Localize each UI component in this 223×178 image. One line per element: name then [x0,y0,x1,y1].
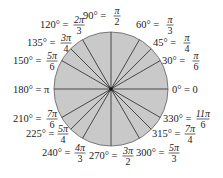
degree-text: 300° = [136,147,165,158]
degree-text: 270° = [89,150,118,161]
degree-text: 90° = [83,10,106,21]
radian-numerator: 5π [169,142,180,153]
center-point [109,87,113,91]
radian-numerator: 5π [58,123,69,134]
radian-numerator: π [193,50,199,61]
angle-label-60: 60° = π3 [136,14,174,36]
radian-denominator: 4 [61,134,66,145]
angle-label-0: 0° = 0 [172,84,198,95]
degree-text: 315° = [152,128,181,139]
radian-numerator: 2π [74,14,85,25]
degree-text: 45° = [153,37,176,48]
angle-label-240: 240° = 4π3 [42,142,86,164]
degree-text: 180° = π [13,84,50,95]
angle-label-225: 225° = 5π4 [26,123,69,145]
radian-numerator: 5π [47,50,58,61]
degree-text: 30° = [162,55,185,66]
radian-numerator: 3π [60,32,72,43]
radian-denominator: 6 [194,61,199,72]
radian-numerator: 3π [122,145,134,156]
radian-numerator: π [114,5,120,16]
angle-label-90: 90° = π2 [83,5,121,27]
radian-denominator: 2 [126,156,131,167]
degree-text: 120° = [40,19,69,30]
degree-text: 225° = [26,128,55,139]
degree-text: 330° = [163,113,192,124]
unit-circle-svg: 0° = 030° = π645° = π460° = π390° = π212… [0,0,223,178]
degree-text: 0° = 0 [172,84,198,95]
radian-numerator: 7π [185,123,196,134]
radian-denominator: 4 [64,43,69,54]
degree-text: 135° = [27,37,56,48]
radian-denominator: 6 [50,61,55,72]
radian-numerator: 4π [75,142,86,153]
radian-denominator: 6 [201,119,206,130]
radian-numerator: π [184,32,190,43]
radian-denominator: 3 [172,153,177,164]
radian-denominator: 3 [77,25,82,36]
radian-numerator: 7π [47,108,58,119]
radian-denominator: 3 [168,25,173,36]
angle-label-270: 270° = 3π2 [89,145,134,167]
degree-text: 210° = [13,113,42,124]
angle-label-300: 300° = 5π3 [136,142,180,164]
radian-denominator: 3 [78,153,83,164]
degree-text: 60° = [136,19,159,30]
degree-text: 150° = [13,55,42,66]
angle-label-150: 150° = 5π6 [13,50,58,72]
radian-numerator: 11π [196,108,211,119]
radian-numerator: π [167,14,173,25]
angle-label-30: 30° = π6 [162,50,200,72]
degree-text: 240° = [42,147,71,158]
radian-denominator: 4 [185,43,190,54]
radian-denominator: 4 [188,134,193,145]
unit-circle-diagram: 0° = 030° = π645° = π460° = π390° = π212… [0,0,223,178]
angle-label-180: 180° = π [13,84,50,95]
radian-denominator: 2 [115,16,120,27]
angle-label-210: 210° = 7π6 [13,108,58,130]
